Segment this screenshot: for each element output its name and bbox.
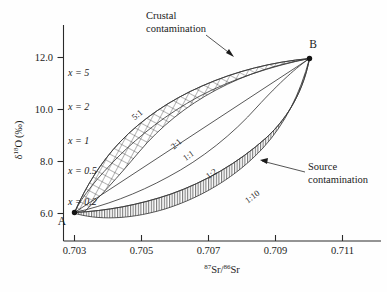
y-title-element: O — [13, 140, 24, 148]
y-axis-title: δ18O(‰) — [12, 120, 25, 160]
plot-area: 12.0 10.0 8.0 6.0 0.703 0.705 0.707 0.70… — [0, 0, 387, 292]
crustal-annotation-line2: contamination — [146, 23, 207, 34]
x-annotation-1: x = 1 — [67, 135, 89, 146]
source-leader-line — [262, 161, 305, 172]
x-tick-labels: 0.703 0.705 0.707 0.709 0.711 — [63, 245, 354, 256]
source-annotation-line1: Source — [308, 161, 337, 172]
contamination-bands — [75, 59, 310, 218]
x-axis-ticks — [75, 235, 343, 241]
svg-text:δ18O(‰): δ18O(‰) — [12, 120, 25, 160]
curve-label-1-1: 1:1 — [181, 148, 196, 163]
source-contamination-band — [75, 59, 310, 218]
source-arrowhead — [260, 158, 268, 164]
crustal-annotation: Crustal contamination — [146, 10, 207, 34]
curve-label-5-1: 5:1 — [130, 107, 145, 122]
x-tick-label-0703: 0.703 — [63, 245, 87, 256]
crustal-arrowhead — [226, 49, 234, 57]
y-tick-label-12: 12.0 — [35, 52, 53, 63]
source-annotation-line2: contamination — [308, 174, 369, 185]
y-tick-label-10: 10.0 — [35, 104, 53, 115]
endpoint-marker-b — [307, 56, 312, 61]
x-tick-label-0709: 0.709 — [264, 245, 288, 256]
x-annotation-5: x = 5 — [67, 67, 89, 78]
x-annotation-0-2: x = 0.2 — [67, 196, 97, 207]
endpoint-label-b: B — [309, 38, 317, 50]
y-tick-label-8: 8.0 — [40, 156, 53, 167]
mixing-diagram-figure: 12.0 10.0 8.0 6.0 0.703 0.705 0.707 0.70… — [0, 0, 387, 292]
curve-label-1-10: 1:10 — [243, 188, 262, 206]
svg-text:87Sr/86Sr: 87Sr/86Sr — [204, 263, 240, 275]
y-tick-label-6: 6.0 — [40, 208, 53, 219]
endpoint-label-a: A — [58, 215, 67, 227]
y-title-units: (‰) — [13, 120, 25, 138]
x-tick-label-0707: 0.707 — [197, 245, 221, 256]
y-axis-ticks — [58, 58, 64, 214]
x-axis-title: 87Sr/86Sr — [204, 263, 240, 275]
source-annotation: Source contamination — [308, 161, 369, 185]
x-tick-label-0705: 0.705 — [130, 245, 154, 256]
x-annotation-0-5: x = 0.5 — [67, 165, 97, 176]
crustal-annotation-line1: Crustal — [146, 10, 176, 21]
x-title-den: Sr — [230, 264, 240, 275]
endpoint-marker-a — [72, 210, 77, 215]
x-annotation-2: x = 2 — [67, 101, 89, 112]
x-tick-label-0711: 0.711 — [331, 245, 354, 256]
y-tick-labels: 12.0 10.0 8.0 6.0 — [35, 52, 53, 219]
